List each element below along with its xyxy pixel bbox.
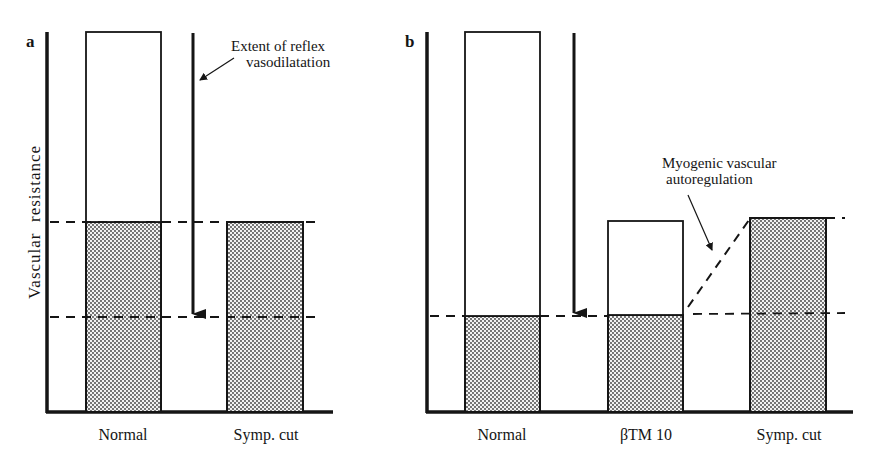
bar-segment-basal xyxy=(608,315,683,412)
category-label-normal-a: Normal xyxy=(99,426,148,443)
annotation-pointer-b xyxy=(688,195,712,250)
annotation-myogenic-line1: Myogenic vascular xyxy=(662,155,777,171)
category-label-btm10-b: βTM 10 xyxy=(620,426,672,444)
panel-b: b Myogenic vascular autoregulation xyxy=(405,32,853,444)
category-label-symp-cut-a: Symp. cut xyxy=(234,426,299,444)
autoregulation-diagonal-line xyxy=(688,220,749,307)
annotation-pointer-a xyxy=(200,58,234,80)
y-axis-label: Vascular resistance xyxy=(25,145,44,299)
bar-segment-basal xyxy=(465,316,540,412)
figure: Vascular resistance a Extent of reflex v… xyxy=(0,0,880,458)
bar-symp-cut-b xyxy=(750,218,826,412)
annotation-myogenic-line2: autoregulation xyxy=(666,171,753,187)
bar-btm10-b xyxy=(608,221,683,412)
bar-segment-basal xyxy=(750,218,826,412)
panel-label-b: b xyxy=(405,32,414,51)
bar-segment-neurogenic xyxy=(608,221,683,315)
annotation-reflex-line1: Extent of reflex xyxy=(231,38,326,54)
panel-a: a Extent of reflex vasodilatation Normal… xyxy=(26,32,333,444)
bar-segment-neurogenic xyxy=(465,32,540,316)
annotation-reflex-line2: vasodilatation xyxy=(246,54,331,70)
category-label-symp-cut-b: Symp. cut xyxy=(757,426,822,444)
bar-segment-neurogenic xyxy=(86,32,161,222)
category-label-normal-b: Normal xyxy=(478,426,527,443)
bar-normal-b xyxy=(465,32,540,412)
panel-label-a: a xyxy=(26,32,35,51)
